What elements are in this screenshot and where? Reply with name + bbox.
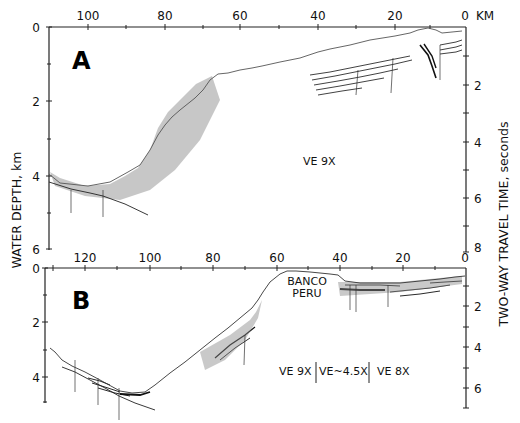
panel-a-x-tick: 80 [157, 9, 172, 23]
panel-a-label: A [72, 47, 91, 75]
panel-b-x-tick: 20 [395, 251, 410, 265]
panel-b-seismic-reflections [88, 281, 462, 396]
panel-b-x-tick: 0 [461, 251, 469, 265]
panel-a-y-tick: 6 [32, 243, 40, 257]
panel-a-x-tick: 20 [387, 9, 402, 23]
panel-a-y2-tick: 6 [474, 192, 482, 206]
panel-a-x-unit: KM [476, 9, 494, 23]
panel-a-y2-tick: 4 [474, 136, 482, 150]
panel-a-x-tick: 40 [310, 9, 325, 23]
panel-b-y-tick: 4 [32, 371, 40, 385]
panel-b-y-tick: 2 [32, 316, 40, 330]
seismic-profiles-figure: 100 80 60 40 20 0 KM 0 2 4 6 2 4 6 8 A V… [0, 0, 520, 423]
panel-b-stipple [200, 276, 462, 370]
panel-b-x-tick: 120 [74, 251, 97, 265]
right-axis-title: TWO-WAY TRAVEL TIME, seconds [496, 121, 511, 327]
panel-b-x-tick: 60 [269, 251, 284, 265]
panel-b-ve-middle: VE~4.5X [319, 365, 368, 378]
panel-b-y2-tick: 2 [474, 300, 482, 314]
panel-b-ve-left: VE 9X [279, 365, 312, 378]
panel-b-x-tick: 80 [205, 251, 220, 265]
left-axis-title: WATER DEPTH, km [9, 152, 24, 269]
panel-a-y2-tick: 8 [474, 241, 482, 255]
banco-peru-label: PERU [292, 287, 321, 300]
panel-a-x-tick: 60 [232, 9, 247, 23]
panel-a-x-tick: 0 [461, 9, 469, 23]
panel-b-label: B [72, 287, 90, 315]
panel-a-y-tick: 2 [32, 95, 40, 109]
panel-b-y-tick: 0 [32, 262, 40, 276]
panel-a-y-tick: 4 [32, 170, 40, 184]
panel-b-y2-tick: 4 [474, 341, 482, 355]
panel-b-y2-tick: 6 [474, 382, 482, 396]
panel-a-seismic-reflections [50, 76, 220, 200]
panel-a: 100 80 60 40 20 0 KM 0 2 4 6 2 4 6 8 A V… [32, 9, 494, 257]
panel-b-x-tick: 40 [332, 251, 347, 265]
panel-a-x-tick: 100 [77, 9, 100, 23]
panel-b-ve-right: VE 8X [377, 365, 410, 378]
panel-b: 120 100 80 60 40 20 0 0 2 4 2 4 6 B BANC… [32, 251, 481, 420]
panel-a-y-tick: 0 [32, 21, 40, 35]
panel-b-x-tick: 100 [139, 251, 162, 265]
panel-a-y2-tick: 2 [474, 79, 482, 93]
panel-a-seafloor-line [49, 28, 462, 186]
panel-a-ve-annotation: VE 9X [303, 155, 336, 168]
